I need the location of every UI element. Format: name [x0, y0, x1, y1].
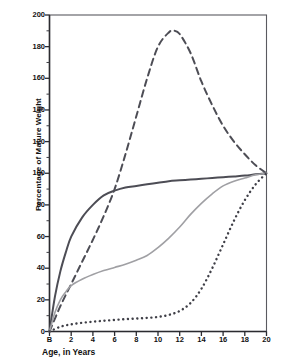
axes-frame [50, 15, 267, 332]
neural-type-curve [50, 173, 267, 331]
general-skeletal-type-curve [50, 173, 267, 331]
plot-area [0, 0, 281, 362]
genital-type-curve [50, 173, 267, 331]
data-curves [50, 31, 267, 332]
chart-figure: Percentage of Mature Weight Age, in Year… [0, 0, 281, 362]
